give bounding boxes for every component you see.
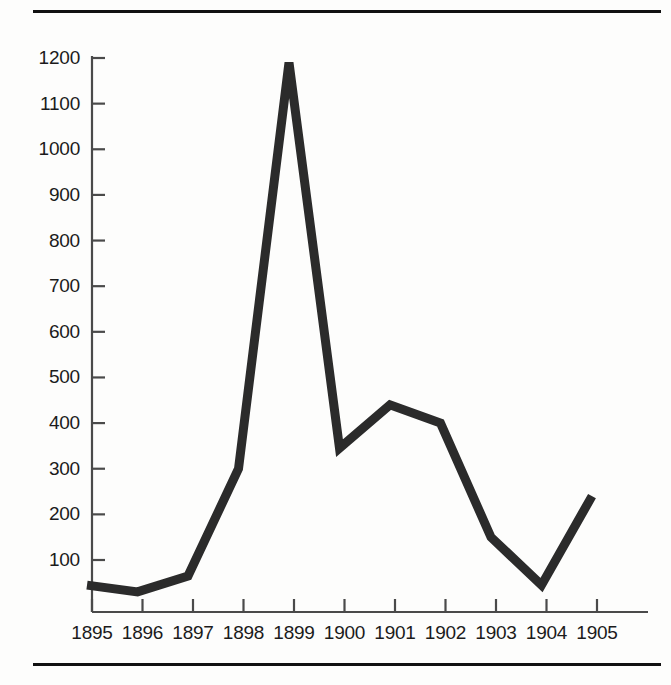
y-tick-label: 500	[0, 366, 80, 388]
x-tick-marks	[92, 599, 597, 612]
x-tick-label: 1897	[172, 622, 213, 644]
y-tick-label: 1200	[0, 47, 80, 69]
y-tick-label: 800	[0, 230, 80, 252]
x-tick-label: 1898	[223, 622, 264, 644]
x-tick-label: 1903	[475, 622, 516, 644]
y-tick-label: 900	[0, 184, 80, 206]
x-tick-label: 1895	[71, 622, 112, 644]
x-tick-label: 1896	[122, 622, 163, 644]
x-tick-label: 1899	[273, 622, 314, 644]
y-tick-label: 100	[0, 549, 80, 571]
y-tick-label: 700	[0, 275, 80, 297]
x-tick-label: 1902	[425, 622, 466, 644]
y-tick-label: 300	[0, 458, 80, 480]
y-tick-marks	[92, 58, 105, 560]
y-tick-label: 200	[0, 503, 80, 525]
x-tick-label: 1905	[576, 622, 617, 644]
x-tick-label: 1901	[374, 622, 415, 644]
y-tick-label: 1100	[0, 93, 80, 115]
y-tick-label: 1000	[0, 138, 80, 160]
x-tick-label: 1900	[324, 622, 365, 644]
line-chart-figure: 100200300400500600700800900100011001200 …	[0, 0, 671, 685]
y-tick-label: 400	[0, 412, 80, 434]
x-tick-label: 1904	[526, 622, 567, 644]
chart-canvas	[0, 0, 671, 685]
y-tick-label: 600	[0, 321, 80, 343]
data-series-line	[87, 63, 592, 592]
chart-page: 100200300400500600700800900100011001200 …	[0, 0, 671, 685]
